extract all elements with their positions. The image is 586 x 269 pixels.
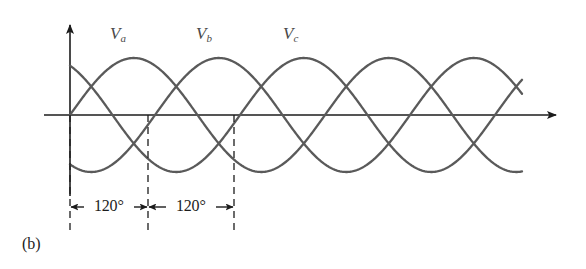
angle-label-second: 120°: [176, 198, 206, 214]
curve-label-vb: Vb: [196, 25, 212, 42]
curve-label-va: Va: [110, 25, 126, 42]
figure-caption: (b): [22, 236, 41, 252]
curve-label-vc: Vc: [283, 25, 298, 42]
angle-label-first: 120°: [94, 198, 124, 214]
axis-group: [44, 25, 556, 196]
three-phase-waveform-figure: Va Vb Vc 120° 120° (b): [0, 0, 586, 269]
